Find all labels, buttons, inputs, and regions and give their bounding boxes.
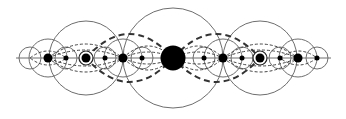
pole-dot <box>315 56 320 61</box>
pole-dot <box>161 46 186 71</box>
pole-dot <box>278 56 283 61</box>
pole-dot <box>64 56 69 61</box>
pole-dot <box>44 54 53 63</box>
pole-dot <box>240 56 245 61</box>
pole-dot <box>256 54 265 63</box>
pole-dot <box>140 56 145 61</box>
pole-dot <box>103 56 108 61</box>
pole-dot <box>82 54 91 63</box>
pole-dot <box>219 54 228 63</box>
pole-dot <box>202 56 207 61</box>
circle-diagram <box>0 0 346 119</box>
pole-dot <box>294 54 303 63</box>
pole-dot <box>119 54 128 63</box>
